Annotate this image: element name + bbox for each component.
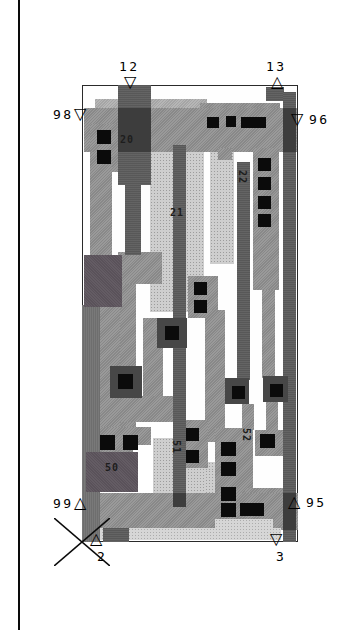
- net-label-51: 51: [171, 440, 182, 454]
- net-label-52: 52: [241, 428, 252, 442]
- layout-rect-cut: [241, 117, 266, 128]
- layout-rect-metal: [266, 402, 278, 432]
- layout-rect-cut: [100, 435, 115, 450]
- net-label-50: 50: [105, 462, 119, 473]
- layout-rect-diff2: [215, 519, 273, 533]
- layout-rect-cut: [221, 487, 236, 501]
- page-left-rule: [18, 0, 20, 630]
- layout-rect-cut: [97, 130, 111, 144]
- layout-rect-cut: [221, 462, 236, 476]
- pin-12-down-triangle-icon: ▽: [124, 74, 136, 90]
- layout-rect-cut: [260, 434, 275, 448]
- layout-rect-cut: [165, 326, 179, 340]
- pin-98-label: 98: [53, 108, 74, 122]
- layout-rect-cut: [258, 196, 271, 209]
- layout-rect-xdark: [173, 493, 186, 507]
- layout-rect-poly: [283, 92, 296, 542]
- net-label-22: 22: [237, 170, 248, 184]
- pin-3-down-triangle-icon: ▽: [270, 531, 282, 547]
- ic-layout-figure: 202122505152 12▽13△98▽96▽99△95△2△3▽: [0, 0, 344, 630]
- layout-rect-metal: [110, 396, 174, 422]
- pin-96-label: 96: [309, 113, 330, 127]
- pin-95-label: 95: [306, 496, 327, 510]
- layout-rect-cut: [186, 428, 199, 441]
- layout-rect-xdark: [118, 108, 151, 152]
- layout-rect-cut: [97, 150, 111, 164]
- layout-rect-cut: [118, 374, 133, 389]
- layout-rect-cut: [258, 177, 271, 190]
- layout-rect-metal: [242, 404, 254, 430]
- layout-rect-cut: [221, 503, 236, 517]
- pin-96-down-triangle-icon: ▽: [291, 111, 303, 127]
- layout-rect-diff: [210, 152, 234, 264]
- layout-rect-cut: [194, 282, 207, 295]
- layout-rect-cut: [240, 503, 264, 516]
- layout-rect-cut: [207, 117, 219, 128]
- layout-rect-cut: [270, 384, 283, 397]
- layout-rect-cut: [258, 158, 271, 171]
- layout-rect-cut: [186, 450, 199, 463]
- layout-rect-cut: [226, 116, 236, 127]
- pin-99-up-triangle-icon: △: [74, 495, 86, 511]
- layout-rect-cut: [123, 435, 138, 450]
- layout-rect-cut: [232, 386, 245, 399]
- layout-rect-metal: [262, 290, 275, 378]
- layout-rect-cut: [221, 442, 236, 456]
- net-label-21: 21: [170, 207, 184, 218]
- layout-rect-metal: [218, 148, 232, 160]
- layout-rect-poly: [237, 162, 250, 380]
- x-mark: [54, 518, 110, 566]
- layout-rect-poly: [125, 185, 141, 255]
- layout-rect-cut: [258, 214, 271, 227]
- layout-rect-well: [84, 255, 122, 307]
- net-label-20: 20: [120, 134, 134, 145]
- pin-3-label: 3: [276, 550, 286, 564]
- pin-98-down-triangle-icon: ▽: [74, 106, 86, 122]
- layout-rect-metal: [118, 252, 162, 284]
- pin-13-up-triangle-icon: △: [271, 74, 283, 90]
- layout-rect-metal: [205, 310, 225, 442]
- layout-rect-cut: [194, 300, 207, 313]
- pin-99-label: 99: [53, 497, 74, 511]
- pin-95-up-triangle-icon: △: [288, 494, 300, 510]
